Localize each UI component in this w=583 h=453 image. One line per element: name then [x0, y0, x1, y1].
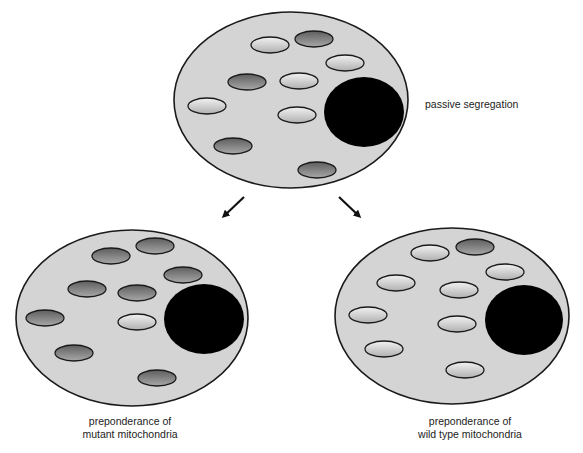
- wildtype-label-line1: preponderance of: [390, 415, 550, 428]
- nucleus: [164, 284, 244, 354]
- arrow-to-wildtype-icon: [339, 197, 359, 216]
- mutant-label-line2: mutant mitochondria: [50, 428, 210, 441]
- nucleus: [324, 77, 404, 147]
- mutant-mitochondrion: [214, 138, 252, 154]
- mutant-mitochondrion: [136, 238, 174, 254]
- segregation-diagram: [0, 0, 583, 453]
- parent-cell: [174, 12, 408, 188]
- mutant-mitochondrion: [228, 74, 266, 90]
- wildtype-preponderance-label: preponderance of wild type mitochondria: [390, 415, 550, 441]
- mutant-label-line1: preponderance of: [50, 415, 210, 428]
- wildtype-mitochondrion: [349, 307, 387, 323]
- mutant-preponderance-label: preponderance of mutant mitochondria: [50, 415, 210, 441]
- mutant-mitochondrion: [55, 345, 93, 361]
- nucleus: [485, 285, 563, 355]
- mutant-mitochondrion: [298, 162, 336, 178]
- wildtype-mitochondrion: [280, 73, 318, 89]
- mutant-mitochondrion: [456, 239, 494, 255]
- mutant-mitochondrion: [118, 285, 156, 301]
- wildtype-daughter-cell: [335, 228, 569, 404]
- arrow-to-mutant-icon: [224, 197, 244, 216]
- wildtype-mitochondrion: [440, 282, 478, 298]
- wildtype-mitochondrion: [118, 314, 156, 330]
- wildtype-mitochondrion: [438, 316, 476, 332]
- mutant-daughter-cell: [16, 230, 248, 406]
- wildtype-mitochondrion: [411, 245, 449, 261]
- mutant-mitochondrion: [68, 281, 106, 297]
- wildtype-mitochondrion: [365, 341, 403, 357]
- wildtype-mitochondrion: [251, 37, 289, 53]
- wildtype-mitochondrion: [486, 264, 524, 280]
- wildtype-mitochondrion: [377, 275, 415, 291]
- mutant-mitochondrion: [164, 267, 202, 283]
- mutant-mitochondrion: [295, 31, 333, 47]
- mutant-mitochondrion: [26, 310, 64, 326]
- wildtype-mitochondrion: [278, 107, 316, 123]
- wildtype-mitochondrion: [326, 55, 364, 71]
- wildtype-label-line2: wild type mitochondria: [390, 428, 550, 441]
- mutant-mitochondrion: [92, 248, 130, 264]
- passive-segregation-label: passive segregation: [425, 98, 518, 111]
- wildtype-mitochondrion: [188, 98, 226, 114]
- mutant-mitochondrion: [138, 370, 176, 386]
- wildtype-mitochondrion: [446, 362, 484, 378]
